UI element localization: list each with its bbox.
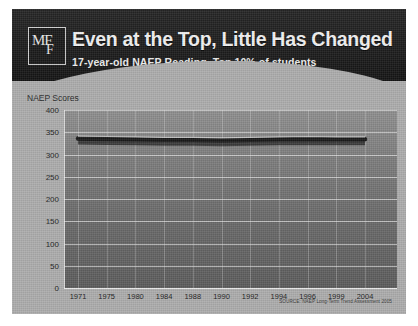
y-axis-tick-label: 350 xyxy=(46,128,59,137)
slide-header: MF F Even at the Top, Little Has Changed… xyxy=(12,9,406,81)
data-series-line xyxy=(64,110,397,288)
chart-title: Even at the Top, Little Has Changed xyxy=(72,28,402,51)
y-axis-tick-label: 300 xyxy=(46,150,59,159)
y-axis-tick-label: 250 xyxy=(46,172,59,181)
logo-bottom-text: F xyxy=(46,42,54,58)
mff-logo: MF F xyxy=(28,27,66,65)
x-axis-tick-label: 1975 xyxy=(98,292,115,301)
source-attribution: SOURCE: NAEP Long-Term Trend Assessment … xyxy=(279,299,392,304)
y-axis-tick-label: 150 xyxy=(46,217,59,226)
y-axis-tick-label: 0 xyxy=(55,284,59,293)
y-axis-title: NAEP Scores xyxy=(27,93,79,103)
gridline xyxy=(64,288,397,289)
x-axis-tick-label: 1990 xyxy=(213,292,230,301)
y-axis-tick-label: 400 xyxy=(46,106,59,115)
y-axis-tick-label: 100 xyxy=(46,239,59,248)
slide: MF F Even at the Top, Little Has Changed… xyxy=(12,9,406,314)
y-axis-tick-label: 200 xyxy=(46,195,59,204)
x-axis-tick-label: 1980 xyxy=(127,292,144,301)
y-axis-tick-label: 50 xyxy=(50,261,59,270)
x-axis-tick-label: 1971 xyxy=(70,292,87,301)
chart-plot-area: 050100150200250300350400 197119751980198… xyxy=(64,110,397,288)
x-axis-tick-label: 1992 xyxy=(242,292,259,301)
x-axis-tick-label: 1988 xyxy=(184,292,201,301)
x-axis-tick-label: 1984 xyxy=(156,292,173,301)
